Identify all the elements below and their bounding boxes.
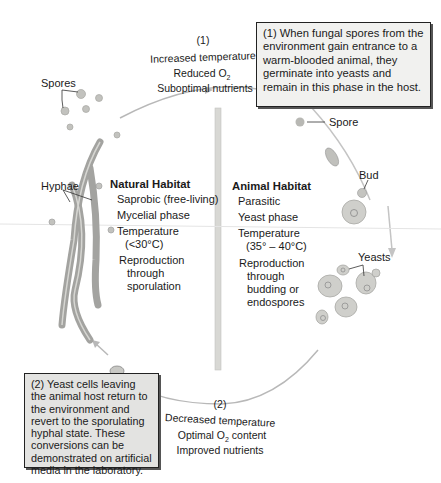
condition-reduced-o2: Reduced O2 [172, 67, 232, 81]
info-box-2-text: (2) Yeast cells leaving the animal host … [31, 378, 152, 476]
condition-number-1: (1) [183, 34, 223, 46]
info-box-1-text: (1) When fungal spores from the environm… [263, 27, 423, 93]
label-hyphae: Hyphae [41, 180, 79, 193]
natural-habitat-item: Mycelial phase [117, 209, 218, 222]
animal-habitat-item: Reproduction [239, 257, 311, 270]
info-box-yeast-conversion: (1) When fungal spores from the environm… [256, 22, 431, 107]
animal-habitat-item: budding or [247, 283, 311, 296]
condition-improved-nutrients: Improved nutrients [170, 444, 270, 456]
animal-habitat-title: Animal Habitat [232, 180, 311, 192]
info-box-hyphal-reversion: (2) Yeast cells leaving the animal host … [24, 373, 159, 468]
animal-habitat-item: through [247, 270, 311, 283]
budding-yeast-graphic [342, 200, 366, 224]
condition-optimal-o2: Optimal O2 content [172, 429, 272, 443]
natural-habitat-item: Saprobic (free-living) [117, 193, 218, 206]
natural-habitat-item: sporulation [127, 280, 218, 293]
animal-habitat-item: endospores [247, 296, 311, 309]
natural-habitat-item: Temperature [117, 225, 218, 238]
animal-habitat-item: Temperature [238, 227, 311, 240]
natural-habitat-title: Natural Habitat [110, 178, 218, 190]
condition-number-2: (2) [200, 398, 240, 410]
label-spore: Spore [329, 116, 358, 129]
natural-habitat-panel: Natural Habitat Saprobic (free-living) M… [110, 178, 218, 293]
natural-habitat-item: Reproduction [119, 254, 218, 267]
natural-habitat-item: through [127, 267, 218, 280]
label-spores: Spores [41, 77, 76, 90]
hyphae-graphic [62, 142, 100, 340]
animal-habitat-panel: Animal Habitat Parasitic Yeast phase Tem… [232, 180, 311, 309]
label-bud: Bud [359, 169, 379, 182]
label-yeasts: Yeasts [358, 251, 391, 264]
animal-habitat-item: (35° – 40°C) [246, 240, 311, 253]
animal-habitat-item: Yeast phase [238, 211, 311, 224]
spores-graphic [61, 90, 120, 139]
natural-habitat-item: (<30°C) [125, 238, 218, 251]
yeasts-graphic [316, 265, 380, 324]
condition-suboptimal-nutrients: Suboptimal nutrients [150, 82, 260, 94]
animal-habitat-item: Parasitic [238, 195, 311, 208]
